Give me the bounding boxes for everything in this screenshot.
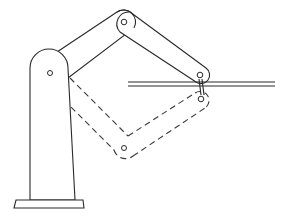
shoulder-pivot-icon [48, 71, 53, 76]
dashed-upper-arm [64, 78, 128, 150]
dashed-wrist-pivot-icon [198, 96, 204, 102]
forearm-link [117, 12, 210, 84]
wrist-pivot-icon [197, 72, 203, 78]
dashed-elbow-pivot-icon [122, 146, 127, 151]
dashed-forearm [114, 91, 209, 158]
elbow-pivot-icon [121, 19, 127, 25]
pedestal-foot [14, 200, 84, 208]
robot-arm-diagram [0, 0, 286, 216]
